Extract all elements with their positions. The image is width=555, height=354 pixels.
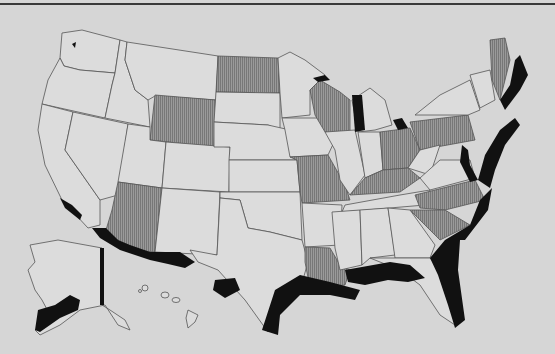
- state-hawaii: [139, 285, 199, 328]
- state-colorado: [162, 142, 230, 192]
- state-montana: [125, 42, 218, 100]
- coast-texas-zone: [213, 278, 240, 298]
- coast-atlantic-mid: [478, 118, 520, 188]
- state-wyoming: [150, 95, 216, 147]
- coast-lake-huron: [393, 118, 408, 130]
- state-north-dakota: [216, 56, 280, 93]
- state-washington: [60, 30, 120, 73]
- state-new-mexico: [155, 188, 220, 255]
- state-new-york: [415, 80, 480, 115]
- us-map: [0, 0, 555, 354]
- state-kansas: [229, 160, 300, 192]
- state-pennsylvania: [410, 115, 475, 150]
